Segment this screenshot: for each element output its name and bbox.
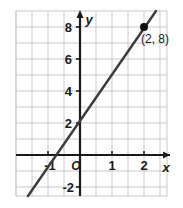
x-tick-label-1: 1 bbox=[108, 158, 115, 173]
coordinate-graph-figure: 8 6 4 2 -2 -1 1 2 O x y (2, 8) bbox=[0, 0, 183, 208]
x-tick-label-2: 2 bbox=[140, 158, 147, 173]
y-axis-label: y bbox=[84, 12, 93, 27]
plotted-point-marker bbox=[140, 23, 148, 31]
x-axis-label: x bbox=[161, 160, 170, 175]
y-tick-label-2: 2 bbox=[65, 116, 72, 131]
y-tick-label-8: 8 bbox=[65, 20, 72, 35]
y-tick-label-neg2: -2 bbox=[62, 180, 74, 195]
origin-label: O bbox=[71, 159, 81, 173]
y-tick-label-4: 4 bbox=[65, 84, 73, 99]
coordinate-plane-svg: 8 6 4 2 -2 -1 1 2 O x y (2, 8) bbox=[0, 0, 183, 208]
plotted-point-label: (2, 8) bbox=[141, 32, 169, 46]
y-tick-label-6: 6 bbox=[65, 52, 72, 67]
